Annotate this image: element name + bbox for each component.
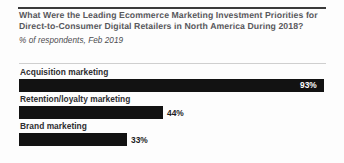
chart-card: What Were the Leading Ecommerce Marketin… [0,0,344,163]
bar-fill [19,133,127,146]
chart-title: What Were the Leading Ecommerce Marketin… [19,10,331,33]
bar-group: Brand marketing 33% [19,120,331,146]
bar-fill [19,79,324,92]
bar-value-label: 44% [167,108,184,119]
bar-fill [19,106,163,119]
bar-chart-plot-area: Acquisition marketing 93% Retention/loya… [19,66,331,147]
bar-value-label: 93% [300,80,317,91]
bar-category-label: Brand marketing [19,120,331,133]
bar-track: 33% [19,133,331,146]
chart-subtitle: % of respondents, Feb 2019 [19,35,331,46]
bar-category-label: Acquisition marketing [19,66,331,79]
bar-value-label: 33% [131,135,148,146]
bar-category-label: Retention/loyalty marketing [19,93,331,106]
top-divider-rule [18,7,326,9]
bar-track: 44% [19,106,331,119]
header-separator-rule [19,63,326,64]
bar-group: Retention/loyalty marketing 44% [19,93,331,119]
bar-track: 93% [19,79,331,92]
chart-header: What Were the Leading Ecommerce Marketin… [19,10,331,46]
bar-group: Acquisition marketing 93% [19,66,331,92]
